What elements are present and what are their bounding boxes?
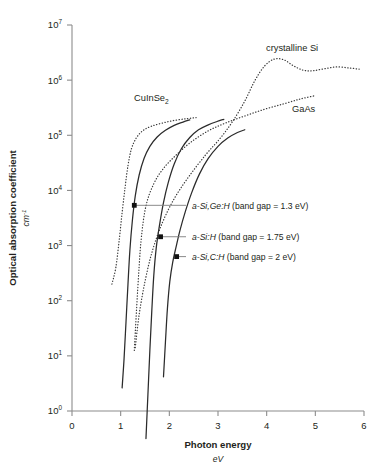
plot-axes xyxy=(72,25,364,411)
y-axis-tick-labels: 100101102103104105106107 xyxy=(48,18,63,416)
y-tick-label: 102 xyxy=(48,294,63,306)
y-tick-label: 106 xyxy=(48,74,63,86)
curve-label-crystalline-si: crystalline Si xyxy=(266,43,318,53)
annotation-marker xyxy=(158,234,163,239)
curve-label-gaas: GaAs xyxy=(292,104,316,114)
y-tick-label: 103 xyxy=(48,239,63,251)
optical-absorption-chart: 100101102103104105106107 0123456 a-Si,Ge… xyxy=(0,0,383,472)
chart-canvas: 100101102103104105106107 0123456 a-Si,Ge… xyxy=(0,0,383,472)
annotation-labels: a-Si,Ge:H (band gap = 1.3 eV)a-Si:H (ban… xyxy=(192,201,308,262)
y-tick-label: 104 xyxy=(48,184,63,196)
y-axis-ticks xyxy=(67,25,72,411)
x-tick-label: 0 xyxy=(69,420,74,431)
x-axis-ticks xyxy=(72,411,364,416)
x-axis-title: Photon energy xyxy=(184,439,252,450)
y-tick-label: 101 xyxy=(48,349,63,361)
x-tick-label: 5 xyxy=(313,420,318,431)
annotation-marker xyxy=(132,203,137,208)
y-tick-label: 107 xyxy=(48,18,63,30)
x-axis-title-group: Photon energy eV xyxy=(184,439,252,464)
annotation-label: a-Si:H (band gap = 1.75 eV) xyxy=(192,232,299,242)
x-tick-label: 6 xyxy=(361,420,366,431)
curve-labels: CuInSe2crystalline SiGaAs xyxy=(134,43,318,114)
annotation-label: a-Si,Ge:H (band gap = 1.3 eV) xyxy=(192,201,308,211)
x-tick-label: 1 xyxy=(118,420,123,431)
x-tick-label: 2 xyxy=(167,420,172,431)
y-axis-title-group: Optical absorption coefficient cm-1 xyxy=(7,150,31,286)
data-series-group xyxy=(112,59,359,439)
y-axis-title: Optical absorption coefficient xyxy=(7,150,18,286)
y-tick-label: 105 xyxy=(48,129,63,141)
curve-label-cuinse2: CuInSe2 xyxy=(134,93,169,105)
x-axis-unit: eV xyxy=(213,454,225,464)
annotation-marker xyxy=(174,254,179,259)
y-axis-unit: cm-1 xyxy=(20,210,31,227)
x-tick-label: 3 xyxy=(215,420,220,431)
x-axis-tick-labels: 0123456 xyxy=(69,420,366,431)
x-tick-label: 4 xyxy=(264,420,269,431)
y-tick-label: 100 xyxy=(48,404,63,416)
series-curve-a-si-h xyxy=(146,119,224,438)
series-curve-cuinse2 xyxy=(112,118,196,285)
annotation-label: a-Si,C:H (band gap = 2 eV) xyxy=(192,252,296,262)
